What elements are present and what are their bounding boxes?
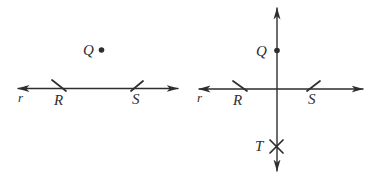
geometry-diagram-canvas: r R S Q r R S Q T: [0, 0, 377, 179]
figure-left: r R S Q: [18, 42, 178, 108]
right-label-R: R: [232, 92, 242, 108]
right-label-r: r: [197, 90, 203, 105]
left-point-Q-dot: [99, 47, 105, 53]
right-label-T: T: [255, 138, 265, 154]
right-label-S: S: [308, 91, 316, 107]
left-tick-mark-S: [131, 81, 143, 91]
right-point-Q-dot: [274, 48, 280, 54]
right-label-Q: Q: [256, 43, 267, 59]
left-label-Q: Q: [83, 42, 94, 58]
left-label-S: S: [132, 91, 140, 107]
left-tick-mark-R: [52, 80, 66, 91]
figure-right: r R S Q T: [197, 8, 363, 171]
left-label-R: R: [53, 92, 63, 108]
geometry-diagram: r R S Q r R S Q T: [0, 0, 377, 179]
left-label-r: r: [18, 90, 24, 105]
